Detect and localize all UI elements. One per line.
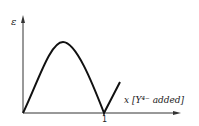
x-tick-label-1: 1 — [102, 115, 107, 124]
x-axis-label-var: x — [124, 95, 129, 105]
x-axis-arrow-icon — [173, 111, 181, 115]
y-axis-label: ε — [11, 16, 16, 27]
x-axis-label: x [Υ⁴⁻ added] — [124, 95, 184, 105]
chart-canvas — [0, 0, 199, 126]
y-axis-arrow-icon — [21, 15, 25, 23]
x-axis-label-unit: [Υ⁴⁻ added] — [132, 95, 184, 105]
data-curve — [23, 42, 120, 113]
